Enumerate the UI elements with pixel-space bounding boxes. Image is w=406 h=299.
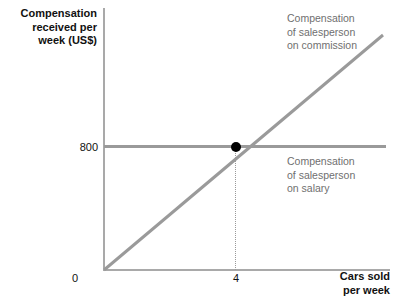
y-tick-label-800: 800 xyxy=(60,141,98,154)
commission-line xyxy=(100,28,390,276)
annotation-salary: Compensation of salesperson on salary xyxy=(287,155,405,196)
intersection-dropline xyxy=(235,148,236,270)
y-axis-title: Compensation received per week (US$) xyxy=(0,7,97,48)
annotation-commission: Compensation of salesperson on commissio… xyxy=(287,12,405,53)
intersection-point-marker xyxy=(231,142,241,152)
origin-tick-label: 0 xyxy=(68,272,82,285)
compensation-chart: Compensation received per week (US$) Car… xyxy=(0,0,406,299)
